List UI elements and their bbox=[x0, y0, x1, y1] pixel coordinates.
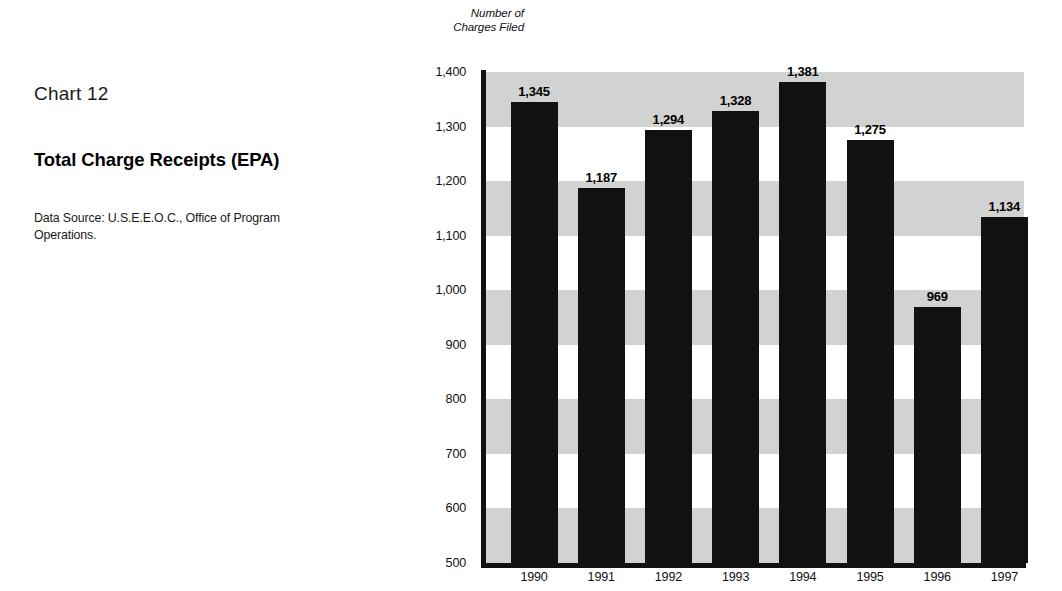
bar-1996 bbox=[914, 307, 961, 563]
chart-number: Chart 12 bbox=[34, 84, 374, 105]
y-tick-500: 500 bbox=[408, 556, 466, 570]
y-tick-800: 800 bbox=[408, 392, 466, 406]
y-tick-1400: 1,400 bbox=[408, 65, 466, 79]
y-tick-1100: 1,100 bbox=[408, 229, 466, 243]
bar-value-label-1993: 1,328 bbox=[720, 93, 752, 108]
bar-1991 bbox=[578, 188, 625, 563]
y-tick-1000: 1,000 bbox=[408, 283, 466, 297]
bar-1990 bbox=[511, 102, 558, 563]
y-axis-line bbox=[481, 70, 486, 565]
y-tick-700: 700 bbox=[408, 447, 466, 461]
y-tick-1200: 1,200 bbox=[408, 174, 466, 188]
x-tick-1996: 1996 bbox=[924, 570, 951, 584]
bar-1993 bbox=[712, 111, 759, 563]
x-tick-1995: 1995 bbox=[856, 570, 883, 584]
bar-1997 bbox=[981, 217, 1028, 563]
bar-value-label-1992: 1,294 bbox=[653, 112, 685, 127]
x-axis-line bbox=[481, 563, 1026, 568]
bar-value-label-1997: 1,134 bbox=[989, 199, 1021, 214]
bar-chart: Number of Charges Filed 1,4001,3001,2001… bbox=[408, 0, 1062, 591]
y-axis-title: Number of Charges Filed bbox=[414, 6, 524, 35]
y-tick-1300: 1,300 bbox=[408, 120, 466, 134]
bar-value-label-1996: 969 bbox=[927, 289, 948, 304]
bar-value-label-1991: 1,187 bbox=[585, 170, 617, 185]
bar-value-label-1995: 1,275 bbox=[854, 122, 886, 137]
x-tick-1992: 1992 bbox=[655, 570, 682, 584]
x-tick-1994: 1994 bbox=[789, 570, 816, 584]
bar-value-label-1990: 1,345 bbox=[518, 84, 550, 99]
y-axis-title-line-2: Charges Filed bbox=[453, 20, 524, 33]
x-tick-1990: 1990 bbox=[520, 570, 547, 584]
bar-1995 bbox=[847, 140, 894, 563]
y-tick-600: 600 bbox=[408, 501, 466, 515]
page-title: Total Charge Receipts (EPA) bbox=[34, 149, 374, 170]
bar-value-label-1994: 1,381 bbox=[787, 64, 819, 79]
bar-1992 bbox=[645, 130, 692, 563]
y-tick-900: 900 bbox=[408, 338, 466, 352]
x-tick-1993: 1993 bbox=[722, 570, 749, 584]
x-tick-1997: 1997 bbox=[991, 570, 1018, 584]
plot-area bbox=[486, 72, 1024, 563]
y-axis-title-line-1: Number of bbox=[471, 6, 524, 19]
caption-block: Chart 12 Total Charge Receipts (EPA) Dat… bbox=[34, 84, 374, 243]
data-source-note: Data Source: U.S.E.E.O.C., Office of Pro… bbox=[34, 210, 334, 243]
x-tick-1991: 1991 bbox=[588, 570, 615, 584]
bar-1994 bbox=[779, 82, 826, 563]
